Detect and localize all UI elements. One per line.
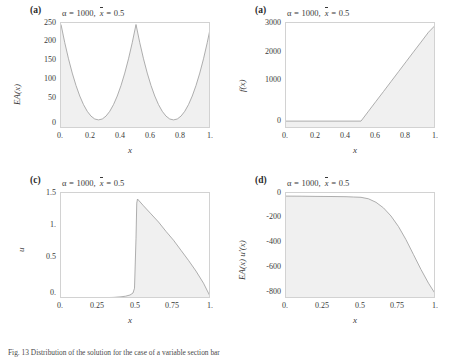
panel-b-xtick-08: 0.8 bbox=[392, 131, 418, 140]
panel-a-plot bbox=[60, 22, 210, 128]
panel-c-label: (c) bbox=[30, 175, 41, 185]
panel-c-ytick-0: 0. bbox=[26, 288, 56, 297]
panel-b-xtick-04: 0.4 bbox=[332, 131, 358, 140]
panel-d-eq2: = bbox=[329, 178, 339, 188]
panel-a-xtick-06: 0.6 bbox=[137, 131, 163, 140]
panel-b-xtick-02: 0.2 bbox=[302, 131, 328, 140]
panel-d-ytick-800: -800 bbox=[245, 287, 281, 296]
panel-c-xbar-symbol: x bbox=[100, 178, 104, 188]
panel-c-eq1: = bbox=[66, 178, 76, 188]
panel-a-ytick-50: 50 bbox=[28, 93, 56, 102]
panel-a-xtick-04: 0.4 bbox=[107, 131, 133, 140]
panel-c-ytick-15: 1.5 bbox=[26, 188, 56, 197]
panel-a-ytick-100: 100 bbox=[28, 74, 56, 83]
panel-c-xtick-05: 0.5 bbox=[122, 301, 148, 310]
panel-c: (c) α = 1000, x = 0.5 1.5 1. 0.5 0. 0. 0… bbox=[0, 170, 226, 340]
panel-c-curve bbox=[61, 193, 210, 298]
panel-grid: (a) α = 1000, x = 0.5 250 200 150 100 50… bbox=[0, 0, 453, 340]
panel-d-label: (d) bbox=[255, 175, 267, 185]
panel-a-curve bbox=[61, 23, 210, 128]
panel-b-xtick-06: 0.6 bbox=[362, 131, 388, 140]
panel-a-xbar-symbol: x bbox=[100, 8, 104, 18]
panel-d-xbar-value: 0.5 bbox=[339, 178, 350, 188]
panel-b-curve bbox=[286, 23, 435, 128]
panel-a: (a) α = 1000, x = 0.5 250 200 150 100 50… bbox=[0, 0, 226, 170]
panel-c-xtick-1: 1. bbox=[197, 301, 223, 310]
panel-a-ytick-0: 0 bbox=[28, 118, 56, 127]
panel-c-ylabel: u bbox=[16, 248, 26, 253]
figure: (a) α = 1000, x = 0.5 250 200 150 100 50… bbox=[0, 0, 453, 357]
panel-b-plot bbox=[285, 22, 435, 128]
panel-b-ytick-2000: 2000 bbox=[245, 47, 281, 56]
panel-c-xtick-0: 0. bbox=[47, 301, 73, 310]
panel-c-plot bbox=[60, 192, 210, 298]
panel-b-ytick-3000: 3000 bbox=[245, 18, 281, 27]
panel-c-ytick-05: 0.5 bbox=[26, 252, 56, 261]
panel-b-title: α = 1000, x = 0.5 bbox=[287, 8, 349, 18]
panel-a-xlabel: x bbox=[110, 145, 150, 155]
panel-b-eq2: = bbox=[329, 8, 339, 18]
panel-c-ytick-1: 1. bbox=[26, 220, 56, 229]
panel-b-xbar-symbol: x bbox=[325, 8, 329, 18]
panel-b-ytick-1000: 1000 bbox=[245, 75, 281, 84]
panel-d: (d) α = 1000, x = 0.5 0 -200 -400 -600 -… bbox=[227, 170, 453, 340]
panel-a-ylabel: EA(x) bbox=[12, 84, 22, 105]
panel-a-ytick-150: 150 bbox=[28, 55, 56, 64]
panel-a-xbar-value: 0.5 bbox=[114, 8, 125, 18]
panel-b: (a) α = 1000, x = 0.5 3000 2000 1000 0 0… bbox=[227, 0, 453, 170]
panel-d-ylabel: EA(x) u'(x) bbox=[237, 240, 247, 280]
panel-b-label: (a) bbox=[255, 5, 266, 15]
panel-c-xlabel: x bbox=[110, 315, 150, 325]
panel-b-alpha-value: 1000 bbox=[301, 8, 318, 18]
panel-a-xtick-0: 0. bbox=[47, 131, 73, 140]
panel-d-ytick-600: -600 bbox=[245, 262, 281, 271]
panel-b-xbar-value: 0.5 bbox=[339, 8, 350, 18]
panel-a-eq2: = bbox=[104, 8, 114, 18]
figure-caption: Fig. 13 Distribution of the solution for… bbox=[8, 348, 220, 357]
panel-c-alpha-value: 1000 bbox=[76, 178, 93, 188]
panel-d-ytick-200: -200 bbox=[245, 212, 281, 221]
panel-d-xtick-0: 0. bbox=[272, 301, 298, 310]
panel-c-xtick-025: 0.25 bbox=[84, 301, 110, 310]
panel-a-alpha-value: 1000 bbox=[76, 8, 93, 18]
panel-d-xtick-05: 0.5 bbox=[347, 301, 373, 310]
panel-d-xtick-1: 1. bbox=[422, 301, 448, 310]
panel-c-xbar-value: 0.5 bbox=[114, 178, 125, 188]
panel-b-ylabel: f(x) bbox=[237, 80, 247, 93]
panel-d-eq1: = bbox=[291, 178, 301, 188]
panel-c-xtick-075: 0.75 bbox=[159, 301, 185, 310]
panel-d-title: α = 1000, x = 0.5 bbox=[287, 178, 349, 188]
panel-d-curve bbox=[286, 193, 435, 298]
panel-d-xbar-symbol: x bbox=[325, 178, 329, 188]
panel-d-xlabel: x bbox=[335, 315, 375, 325]
panel-d-xtick-075: 0.75 bbox=[384, 301, 410, 310]
panel-b-xlabel: x bbox=[335, 145, 375, 155]
panel-b-xtick-0: 0. bbox=[272, 131, 298, 140]
panel-b-xtick-1: 1. bbox=[422, 131, 448, 140]
panel-d-plot bbox=[285, 192, 435, 298]
panel-c-title: α = 1000, x = 0.5 bbox=[62, 178, 124, 188]
panel-a-ytick-250: 250 bbox=[28, 18, 56, 27]
panel-a-label: (a) bbox=[30, 5, 41, 15]
panel-a-ytick-200: 200 bbox=[28, 36, 56, 45]
panel-a-eq1: = bbox=[66, 8, 76, 18]
panel-a-xtick-02: 0.2 bbox=[77, 131, 103, 140]
panel-b-ytick-0: 0 bbox=[245, 116, 281, 125]
panel-a-xtick-08: 0.8 bbox=[167, 131, 193, 140]
panel-d-xtick-025: 0.25 bbox=[309, 301, 335, 310]
panel-d-ytick-0: 0 bbox=[245, 188, 281, 197]
panel-d-alpha-value: 1000 bbox=[301, 178, 318, 188]
panel-b-eq1: = bbox=[291, 8, 301, 18]
panel-a-title: α = 1000, x = 0.5 bbox=[62, 8, 124, 18]
panel-d-ytick-400: -400 bbox=[245, 237, 281, 246]
panel-c-eq2: = bbox=[104, 178, 114, 188]
panel-a-xtick-1: 1. bbox=[197, 131, 223, 140]
